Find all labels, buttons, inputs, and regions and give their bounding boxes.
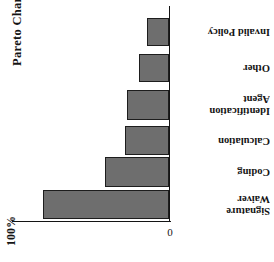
bar-row [125,126,169,155]
bar-row [147,18,169,46]
bar-coding [105,157,169,187]
category-label: Coding [176,166,270,178]
category-label: Calculation [176,135,270,147]
category-label: Invalid Policy [176,26,270,38]
bar-invalid-policy [147,18,169,46]
pareto-chart-figure: Pareto Chart 100% 0 Invalid PolicyOtherI… [0,0,274,262]
bar-row [105,157,169,187]
bar-other [139,54,169,82]
bar-calculation [125,126,169,155]
bar-waiver-signature [43,190,169,219]
bar-agent-identification [127,90,169,120]
category-label: Identification Agent [176,93,270,117]
category-label: Signature Waiver [176,193,270,217]
bar-row [43,190,169,219]
bar-row [139,54,169,82]
bar-row [127,90,169,120]
category-label: Other [176,62,270,74]
bars-layer: Invalid PolicyOtherIdentification AgentC… [0,0,274,262]
